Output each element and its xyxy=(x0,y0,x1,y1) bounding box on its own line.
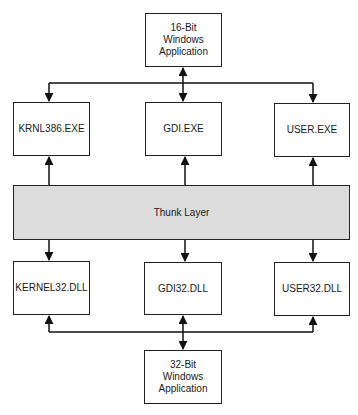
thunk-layer-label: Thunk Layer xyxy=(154,207,210,219)
box-user-exe: USER.EXE xyxy=(274,103,350,157)
thunk-layer: Thunk Layer xyxy=(13,185,350,240)
box-32bit-app: 32-Bit Windows Application xyxy=(144,350,222,404)
box-16bit-app: 16-Bit Windows Application xyxy=(145,13,222,67)
box-gdi32-dll: GDI32.DLL xyxy=(144,262,222,315)
box-user32-dll: USER32.DLL xyxy=(274,262,350,316)
box-16bit-app-label: 16-Bit Windows Application xyxy=(159,22,208,58)
box-gdi-exe: GDI.EXE xyxy=(145,102,222,156)
box-krnl386-label: KRNL386.EXE xyxy=(18,123,84,135)
box-gdi-label: GDI.EXE xyxy=(163,123,204,135)
box-kernel32-label: KERNEL32.DLL xyxy=(15,282,87,294)
box-user-label: USER.EXE xyxy=(287,124,338,136)
box-kernel32-dll: KERNEL32.DLL xyxy=(13,261,90,315)
box-gdi32-label: GDI32.DLL xyxy=(158,283,208,295)
box-32bit-app-label: 32-Bit Windows Application xyxy=(159,359,208,395)
box-krnl386-exe: KRNL386.EXE xyxy=(13,102,90,156)
box-user32-label: USER32.DLL xyxy=(282,283,342,295)
